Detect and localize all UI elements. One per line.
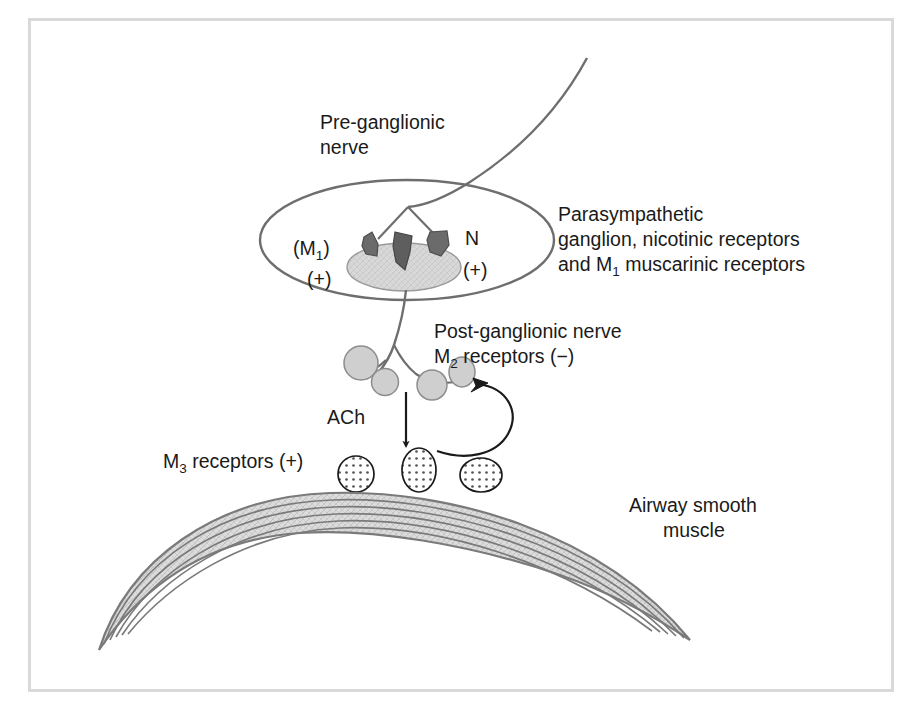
preganglionic-nerve-label-line1: Pre-ganglionic: [320, 111, 445, 133]
muscle-label-line1: Airway smooth: [629, 494, 757, 516]
diagram-canvas: (M1) (+) N (+) ACh: [0, 0, 920, 715]
m1-receptor-inner-label: (M1): [293, 237, 330, 263]
ach-release-group: ACh: [327, 392, 406, 446]
figure-root: (M1) (+) N (+) ACh: [0, 0, 920, 715]
m1-plus-sign-label: (+): [307, 268, 331, 290]
ganglion-label-line2: ganglion, nicotinic receptors: [558, 228, 800, 250]
ganglion-label-line1: Parasympathetic: [558, 203, 703, 225]
m2-feedback-group: [437, 378, 513, 456]
m3-receptor-center: [402, 448, 436, 492]
muscle-label-line2: muscle: [663, 519, 725, 541]
postganglionic-nerve-fiber: [378, 290, 406, 373]
varicosity-3: [417, 370, 447, 400]
m3-receptors-label: M3 receptors (+): [163, 450, 303, 476]
preganglionic-nerve-label-line2: nerve: [320, 136, 369, 158]
nicotinic-n-label: N: [465, 227, 479, 249]
m2-feedback-loop: [437, 384, 513, 456]
m3-receptor-right: [460, 458, 502, 492]
varicosities-group: [344, 346, 475, 400]
ganglion-label-line3: and M1 muscarinic receptors: [558, 253, 805, 279]
ach-label: ACh: [327, 406, 365, 428]
m3-receptor-left: [338, 456, 374, 492]
airway-smooth-muscle-group: [99, 493, 690, 650]
postganglionic-label-line2: M2 receptors (−): [434, 345, 574, 371]
postganglionic-label-line1: Post-ganglionic nerve: [434, 320, 622, 342]
varicosity-2: [372, 369, 399, 396]
synaptic-branch-group: [378, 207, 437, 239]
nicotinic-plus-sign-label: (+): [463, 259, 487, 281]
